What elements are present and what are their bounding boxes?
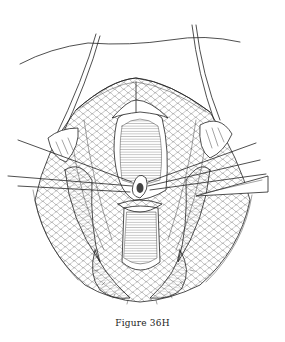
- skin-outline: [20, 37, 240, 64]
- figure-caption: Figure 36H: [0, 318, 285, 328]
- surgical-illustration: [0, 0, 285, 310]
- figure: Figure 36H: [0, 0, 285, 342]
